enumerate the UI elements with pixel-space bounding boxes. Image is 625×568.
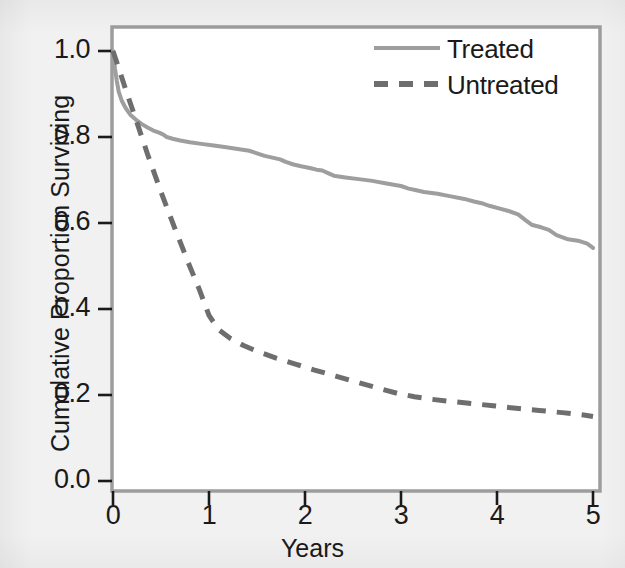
y-tick-label: 1.0 <box>8 34 90 65</box>
x-tick-label: 0 <box>83 500 143 531</box>
y-axis-title: Cumulative Proportion Surviving <box>46 64 75 484</box>
x-tick-label: 1 <box>179 500 239 531</box>
legend-label-treated: Treated <box>447 34 534 65</box>
legend-label-untreated: Untreated <box>447 70 558 101</box>
x-tick-label: 5 <box>563 500 623 531</box>
x-tick-label: 2 <box>275 500 335 531</box>
x-axis-title: Years <box>0 534 625 563</box>
x-tick-label: 4 <box>467 500 527 531</box>
x-tick-label: 3 <box>371 500 431 531</box>
survival-chart-figure: 1.0 0.8 0.6 0.4 0.2 0.0 0 1 2 3 4 5 Cumu… <box>0 0 625 568</box>
y-axis-ticks <box>98 51 112 481</box>
